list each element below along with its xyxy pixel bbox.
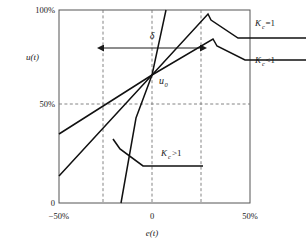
y-tick-0: 0 xyxy=(51,198,55,208)
delta-label: δ xyxy=(150,30,155,41)
kc-gt-main: K xyxy=(160,148,168,158)
kc-gt-relation: >1 xyxy=(172,148,182,158)
kc-gt-subscript: c xyxy=(168,153,171,160)
kc-eq-main: K xyxy=(254,18,262,28)
chart-svg: δ u 0 K c =1 K c <1 xyxy=(0,0,306,242)
x-axis-ticks: −50% 0 50% xyxy=(49,211,258,221)
y-tick-100: 100% xyxy=(35,5,55,15)
x-tick-50: 50% xyxy=(242,211,258,221)
proportional-control-chart: δ u 0 K c =1 K c <1 xyxy=(0,0,306,242)
kc-lt-main: K xyxy=(254,55,262,65)
y-axis-title: u(t) xyxy=(26,52,39,62)
x-tick-minus50: −50% xyxy=(49,211,69,221)
u0-label: u xyxy=(159,75,164,86)
x-axis-title: e(t) xyxy=(146,228,159,238)
kc-lt-relation: <1 xyxy=(266,55,276,65)
label-kc-equal-1: K c =1 xyxy=(254,18,275,30)
kc-eq-relation: =1 xyxy=(266,18,276,28)
plot-frame xyxy=(59,10,250,203)
x-tick-0: 0 xyxy=(150,211,154,221)
y-axis-ticks: 100% 50% 0 xyxy=(35,5,55,208)
plot-border xyxy=(59,10,250,203)
y-tick-50: 50% xyxy=(39,99,55,109)
label-kc-less-than-1: K c <1 xyxy=(254,55,275,67)
